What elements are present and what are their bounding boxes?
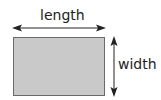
width-arrow-icon — [111, 36, 118, 97]
width-label: width — [118, 57, 157, 71]
length-arrow-icon — [12, 25, 106, 32]
rectangle-dimensions-diagram: length width — [0, 0, 161, 100]
shaded-rectangle — [13, 37, 105, 96]
